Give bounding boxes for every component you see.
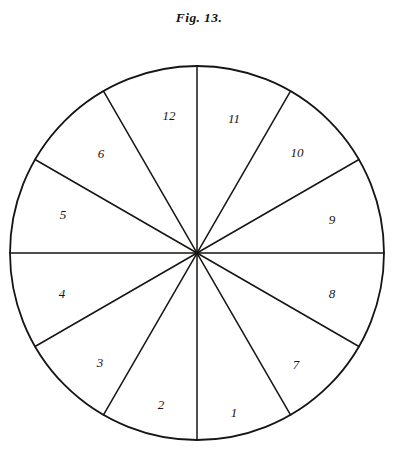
- sector-spoke: [104, 253, 198, 415]
- sector-label-10: 10: [291, 146, 304, 159]
- sector-label-9: 9: [329, 213, 336, 226]
- figure-container: Fig. 13. 123456121110987: [0, 0, 398, 464]
- sector-label-8: 8: [329, 287, 336, 300]
- sector-spoke: [197, 91, 291, 253]
- sector-label-12: 12: [163, 109, 176, 122]
- spokes-group: [10, 66, 384, 440]
- sector-label-3: 3: [97, 356, 104, 369]
- sector-label-11: 11: [228, 112, 240, 125]
- sector-label-4: 4: [59, 287, 66, 300]
- sector-label-5: 5: [60, 208, 67, 221]
- sector-spoke: [197, 253, 291, 415]
- sector-label-2: 2: [158, 398, 165, 411]
- sector-label-7: 7: [293, 358, 300, 371]
- sector-spoke: [197, 160, 359, 254]
- sector-circle-diagram: [0, 0, 398, 464]
- sector-spoke: [104, 91, 198, 253]
- sector-label-1: 1: [231, 406, 238, 419]
- sector-label-6: 6: [98, 147, 105, 160]
